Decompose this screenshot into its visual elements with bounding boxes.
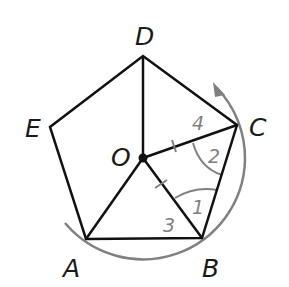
angle-label-2: 2 [208,145,220,167]
angle-label-3: 3 [163,214,175,236]
angle-label-4: 4 [192,112,204,134]
label-e: E [25,114,41,143]
segment-oc [143,125,237,158]
center-point [139,154,148,163]
label-d: D [135,22,154,51]
arrowhead-icon [213,82,225,97]
label-b: B [202,254,219,283]
label-c: C [249,113,267,142]
angle-label-1: 1 [192,196,204,218]
pentagon-diagram: D E C O A B 4 2 1 3 [0,0,289,287]
label-a: A [61,254,80,283]
label-o: O [111,143,131,172]
